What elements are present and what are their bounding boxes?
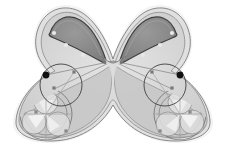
wing-speck-left-3: [81, 53, 85, 57]
node-point-right: [177, 72, 184, 79]
square-marker-right-3: [188, 110, 191, 113]
wing-speck-right-1: [170, 31, 174, 35]
square-marker-left-3: [34, 110, 37, 113]
square-marker-left-1: [72, 70, 75, 73]
node-point-left: [43, 72, 50, 79]
square-marker-right-4: [158, 129, 161, 132]
wing-speck-left-2: [64, 43, 68, 47]
figure-canvas: Symmetric butterfly geometric constructi…: [0, 0, 226, 144]
wing-speck-left-1: [52, 31, 56, 35]
square-marker-right-1: [150, 70, 153, 73]
square-marker-right-2: [170, 86, 173, 89]
square-marker-left-2: [52, 86, 55, 89]
square-marker-left-4: [64, 129, 67, 132]
wing-speck-right-3: [141, 53, 145, 57]
butterfly-construction-figure: [0, 0, 226, 144]
wing-speck-right-2: [158, 43, 162, 47]
